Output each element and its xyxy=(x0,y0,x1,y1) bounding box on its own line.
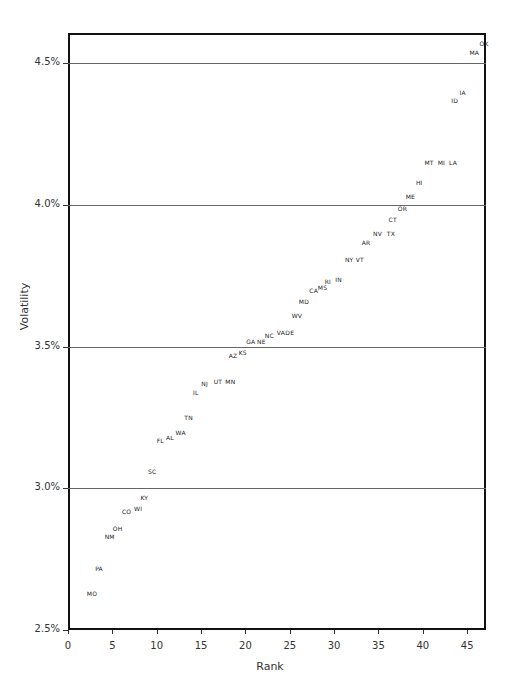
gridline xyxy=(68,205,486,206)
data-point-label: NY xyxy=(345,255,354,262)
data-point-label: WI xyxy=(134,505,142,512)
x-tick-mark xyxy=(378,630,379,634)
x-tick-mark xyxy=(157,630,158,634)
y-axis-title: Volatility xyxy=(18,277,31,337)
x-tick-label: 30 xyxy=(322,640,346,651)
data-point-label: UT xyxy=(214,377,222,384)
data-point-label: MA xyxy=(469,48,479,55)
y-tick-mark xyxy=(63,488,68,489)
data-point-label: MT xyxy=(424,159,433,166)
x-tick-label: 40 xyxy=(411,640,435,651)
data-point-label: AL xyxy=(166,434,174,441)
gridline xyxy=(68,347,486,348)
gridline xyxy=(68,488,486,489)
data-point-label: KY xyxy=(140,493,148,500)
x-tick-label: 10 xyxy=(145,640,169,651)
x-tick-label: 45 xyxy=(455,640,479,651)
x-tick-label: 35 xyxy=(366,640,390,651)
data-point-label: IL xyxy=(193,388,199,395)
data-point-label: RI xyxy=(325,278,331,285)
data-point-label: LA xyxy=(449,159,457,166)
data-point-label: NM xyxy=(105,533,115,540)
data-point-label: OH xyxy=(113,524,123,531)
data-point-label: TX xyxy=(387,230,395,237)
data-point-label: IA xyxy=(460,88,466,95)
x-tick-mark xyxy=(423,630,424,634)
data-point-label: OK xyxy=(479,40,488,47)
data-point-label: MI xyxy=(438,159,445,166)
y-tick-label: 2.5% xyxy=(0,623,60,634)
x-tick-label: 15 xyxy=(189,640,213,651)
x-tick-mark xyxy=(245,630,246,634)
data-point-label: PA xyxy=(95,564,103,571)
data-point-label: MN xyxy=(225,377,235,384)
data-point-label: KS xyxy=(239,349,247,356)
y-tick-label: 4.5% xyxy=(0,56,60,67)
data-point-label: WV xyxy=(292,312,302,319)
data-point-label: CA xyxy=(309,286,318,293)
data-point-label: NC xyxy=(265,332,274,339)
y-tick-label: 4.0% xyxy=(0,198,60,209)
data-point-label: AR xyxy=(362,238,371,245)
data-point-label: OR xyxy=(398,204,407,211)
data-point-label: MO xyxy=(87,590,97,597)
data-point-label: IN xyxy=(335,275,342,282)
data-point-label: DE xyxy=(285,329,294,336)
data-point-label: NJ xyxy=(201,380,208,387)
x-tick-mark xyxy=(68,630,69,634)
y-tick-label: 3.5% xyxy=(0,340,60,351)
x-tick-label: 20 xyxy=(233,640,257,651)
x-tick-label: 0 xyxy=(56,640,80,651)
x-tick-mark xyxy=(334,630,335,634)
data-point-label: GA xyxy=(246,337,255,344)
data-point-label: SC xyxy=(148,468,156,475)
y-tick-mark xyxy=(63,63,68,64)
x-tick-mark xyxy=(112,630,113,634)
data-point-label: WA xyxy=(176,428,186,435)
data-point-label: CO xyxy=(122,507,131,514)
volatility-rank-chart: 2.5%3.0%3.5%4.0%4.5% 051015202530354045 … xyxy=(0,0,511,692)
x-tick-label: 5 xyxy=(100,640,124,651)
data-point-label: HI xyxy=(416,179,423,186)
y-tick-mark xyxy=(63,347,68,348)
x-tick-label: 25 xyxy=(278,640,302,651)
gridline xyxy=(68,63,486,64)
data-point-label: NV xyxy=(373,230,382,237)
data-point-label: ID xyxy=(451,97,458,104)
data-point-label: VT xyxy=(356,255,364,262)
x-tick-mark xyxy=(290,630,291,634)
data-point-label: ME xyxy=(406,193,415,200)
x-tick-mark xyxy=(467,630,468,634)
x-axis-title: Rank xyxy=(250,660,290,673)
y-tick-label: 3.0% xyxy=(0,481,60,492)
data-point-label: AZ xyxy=(229,352,238,359)
y-tick-mark xyxy=(63,205,68,206)
data-point-label: TN xyxy=(184,414,193,421)
data-point-label: FL xyxy=(157,437,164,444)
data-point-label: VA xyxy=(277,329,285,336)
data-point-label: CT xyxy=(389,216,397,223)
data-point-label: MD xyxy=(299,298,309,305)
x-tick-mark xyxy=(201,630,202,634)
